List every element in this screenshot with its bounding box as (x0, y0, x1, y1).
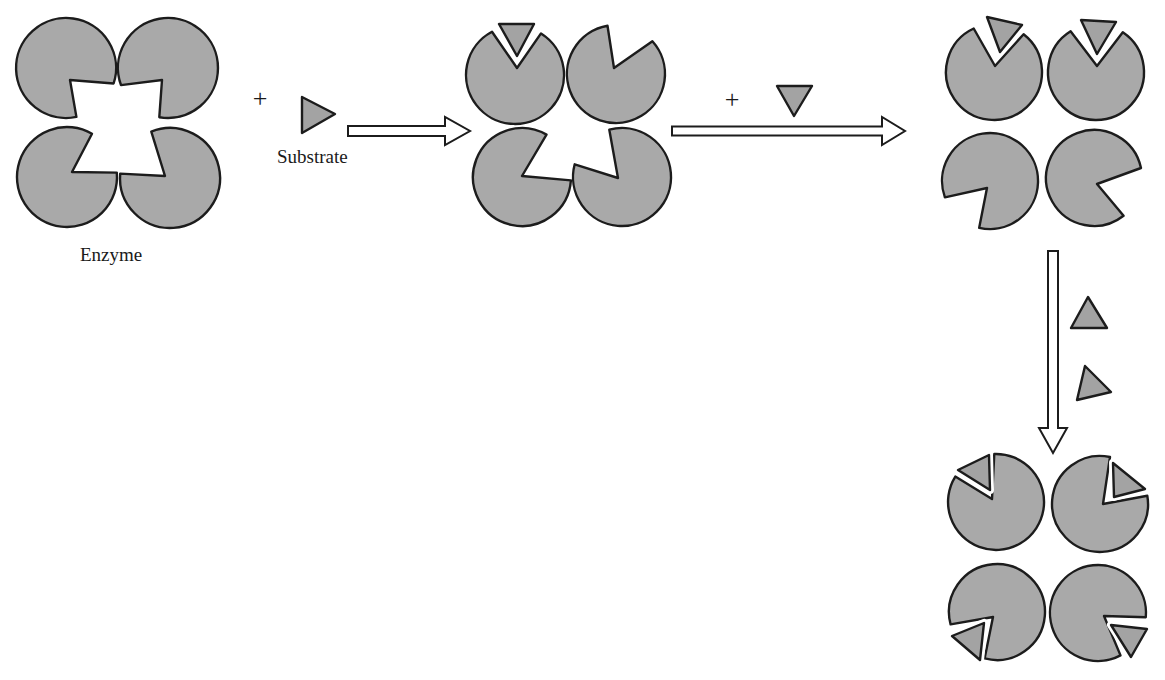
enzyme-stage-two-substrates-bound (942, 17, 1144, 229)
arrow-step-3-icon (1039, 251, 1067, 453)
enzyme-subunit-top-left (16, 18, 116, 118)
enzyme-label: Enzyme (80, 244, 142, 266)
enzyme-subunit-bottom-left (17, 127, 117, 227)
substrate-2-triangle-icon (777, 86, 812, 116)
enzyme-subunit-bottom-left (473, 128, 571, 226)
enzyme-stage-fully-bound (948, 454, 1148, 661)
enzyme-subunit-top-right (118, 18, 218, 118)
cooperative-binding-diagram (0, 0, 1165, 680)
enzyme-stages (16, 17, 1148, 661)
enzyme-stage-one-substrate-bound (466, 24, 671, 226)
enzyme-subunit-top-right (1052, 456, 1148, 552)
substrate-4-triangle-icon (1077, 366, 1111, 400)
enzyme-stage-free-enzyme (16, 18, 220, 228)
enzyme-subunit-bottom-left (942, 133, 1038, 229)
substrate-1-triangle-icon (302, 97, 335, 133)
arrow-step-1-icon (348, 117, 470, 145)
enzyme-subunit-bottom-right (573, 128, 671, 226)
substrate-label: Substrate (277, 146, 348, 168)
arrow-step-2-icon (672, 117, 905, 145)
enzyme-subunit-top-right (567, 26, 665, 123)
substrate-3-triangle-icon (1071, 297, 1107, 328)
enzyme-subunit-bottom-right (120, 128, 220, 228)
plus-sign-1: + (247, 86, 273, 112)
enzyme-subunit-bottom-right (1046, 130, 1141, 226)
plus-sign-2: + (719, 87, 745, 113)
